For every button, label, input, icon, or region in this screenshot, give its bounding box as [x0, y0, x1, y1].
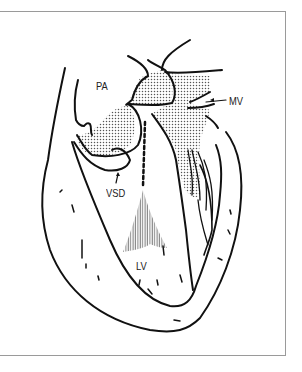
label-lv: LV [136, 260, 147, 272]
label-vsd: VSD [106, 187, 125, 199]
label-mv: MV [229, 95, 243, 107]
mv-arrow [206, 100, 226, 102]
septum-dashed [143, 122, 145, 186]
heart-diagram [0, 0, 302, 372]
rv-wall [75, 80, 92, 135]
aorta [162, 40, 190, 70]
label-pa: PA [96, 80, 108, 92]
lv-hatched-region [123, 190, 167, 252]
